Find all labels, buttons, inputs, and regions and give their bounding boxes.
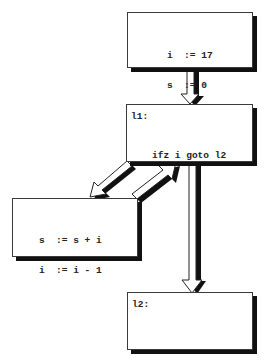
edge-l1-to-l2 — [182, 163, 206, 294]
node-body: s := s + i i := i - 1 — [12, 198, 138, 257]
node-entry: i := 17 s := 0 — [127, 12, 253, 68]
node-entry-code: i := 17 s := 0 — [167, 31, 213, 111]
node-l1: l1: ifz i goto l2 — [126, 104, 253, 162]
control-flow-diagram: i := 17 s := 0 l1: ifz i goto l2 s := s … — [0, 0, 268, 363]
code-line: s := 0 — [167, 81, 213, 91]
node-l1-label: l1: — [131, 111, 148, 122]
node-l2-label: l2: — [132, 299, 149, 310]
node-body-code: s := s + i i := i - 1 — [39, 216, 102, 296]
code-line: i := i - 1 — [39, 266, 102, 276]
code-line: s := s + i — [39, 236, 102, 246]
node-l1-code: ifz i goto l2 — [152, 131, 226, 181]
edge-l1-to-body — [90, 161, 136, 200]
code-line: i := 17 — [167, 51, 213, 61]
node-l2: l2: — [127, 292, 253, 350]
code-line: ifz i goto l2 — [152, 151, 226, 161]
